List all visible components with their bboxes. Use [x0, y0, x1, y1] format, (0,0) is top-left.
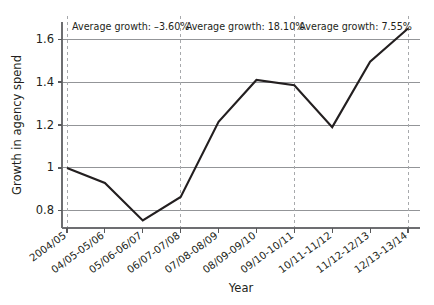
y-tick-label: 1	[47, 160, 54, 174]
average-growth-annotations: Average growth: –3.60%Average growth: 18…	[72, 21, 412, 32]
x-axis-ticks	[67, 228, 408, 233]
y-axis-ticks: 0.811.21.41.6	[36, 32, 62, 218]
y-axis-title: Growth in agency spend	[10, 55, 24, 195]
y-tick-label: 1.2	[36, 118, 54, 132]
average-growth-annotation: Average growth: –3.60%	[72, 21, 189, 32]
y-tick-label: 0.8	[36, 203, 54, 217]
x-axis-tick-labels: 2004/0504/05-05/0605/06-06/0706/07-07/08…	[27, 230, 409, 276]
average-growth-annotation: Average growth: 18.10%	[186, 21, 305, 32]
line-chart-figure: 0.811.21.41.6 2004/0504/05-05/0605/06-06…	[0, 0, 434, 305]
gridlines	[62, 39, 420, 211]
growth-line-series	[67, 28, 408, 220]
y-tick-label: 1.4	[36, 75, 54, 89]
segment-separators	[67, 16, 408, 232]
average-growth-annotation: Average growth: 7.55%	[299, 21, 412, 32]
x-axis-title: Year	[228, 281, 254, 295]
y-tick-label: 1.6	[36, 32, 54, 46]
chart-canvas: 0.811.21.41.6 2004/0504/05-05/0605/06-06…	[0, 0, 434, 305]
